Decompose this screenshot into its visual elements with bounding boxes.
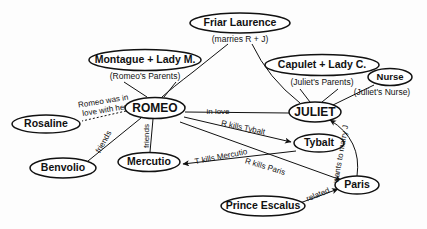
edge-label-text-romeo-juliet-love: in love (206, 107, 230, 116)
edge-label-text-romeo-kills-paris: R kills Paris (244, 156, 287, 177)
edge-label-text-paris-wants-juliet: wants to marry J (331, 124, 350, 184)
node-label-mercutio: Mercutio (127, 155, 171, 167)
edge-montague-romeo-right (164, 82, 176, 97)
node-label-benvolio: Benvolio (41, 161, 85, 173)
sublabel-nurse-sub: (Juliet's Nurse) (354, 87, 411, 97)
node-romeo[interactable]: ROMEO (125, 98, 185, 119)
node-montague[interactable]: Montague + Lady M. (89, 50, 201, 71)
edge-label-tybalt-kills-mercutio: T kills Mercutio (194, 147, 248, 166)
sublabel-capulet-sub: (Juliet's Parents) (290, 77, 353, 87)
sublabel-friar-sub: (marries R + J) (212, 34, 269, 44)
node-prince[interactable]: Prince Escalus (221, 196, 305, 216)
edge-label-paris-wants-juliet: wants to marry J (331, 124, 350, 184)
node-paris[interactable]: Paris (335, 176, 379, 194)
diagram-canvas: Friar LaurenceMontague + Lady M.Capulet … (0, 0, 427, 229)
edge-romeo-juliet-love (185, 112, 289, 113)
node-label-montague: Montague + Lady M. (95, 53, 196, 65)
node-label-paris: Paris (344, 178, 370, 190)
edge-label-romeo-juliet-love: in love (206, 107, 230, 116)
node-label-juliet: JULIET (294, 105, 336, 119)
node-nurse[interactable]: Nurse (368, 69, 412, 86)
edge-label-romeo-kills-paris: R kills Paris (244, 156, 287, 177)
edge-label-romeo-loved-rosaline: Romeo was inlove with her (77, 93, 130, 119)
edge-label-text-romeo-mercutio: friends (142, 124, 151, 148)
edge-label-text-romeo-kills-tybalt: R kills Tybalt (220, 119, 266, 137)
sublabel-montague-sub: (Romeo's Parents) (110, 71, 181, 81)
node-mercutio[interactable]: Mercutio (118, 153, 180, 172)
node-label-prince: Prince Escalus (226, 199, 301, 211)
edge-label-prince-paris-related: related (305, 186, 331, 204)
node-label-capulet: Capulet + Lady C. (278, 58, 366, 70)
node-label-friar: Friar Laurence (204, 16, 277, 28)
edge-label-text-prince-paris-related: related (305, 186, 331, 204)
edge-capulet-juliet-right (322, 89, 338, 102)
node-label-nurse: Nurse (377, 71, 404, 82)
node-friar[interactable]: Friar Laurence (190, 13, 290, 33)
node-label-tybalt: Tybalt (304, 136, 335, 148)
node-capulet[interactable]: Capulet + Lady C. (265, 55, 379, 76)
edge-label-text-romeo-benvolio: friends (94, 129, 114, 154)
node-label-romeo: ROMEO (132, 101, 177, 115)
edge-label-text-tybalt-kills-mercutio: T kills Mercutio (194, 147, 248, 166)
edge-label-romeo-benvolio: friends (94, 129, 114, 154)
diagram-svg: Friar LaurenceMontague + Lady M.Capulet … (0, 0, 427, 229)
node-juliet[interactable]: JULIET (289, 102, 341, 122)
node-benvolio[interactable]: Benvolio (30, 158, 96, 178)
node-rosaline[interactable]: Rosaline (12, 115, 80, 133)
edge-capulet-juliet-left (300, 89, 310, 102)
edge-label-romeo-kills-tybalt: R kills Tybalt (220, 119, 266, 137)
edge-label-romeo-mercutio: friends (142, 124, 151, 148)
node-label-rosaline: Rosaline (24, 117, 68, 129)
